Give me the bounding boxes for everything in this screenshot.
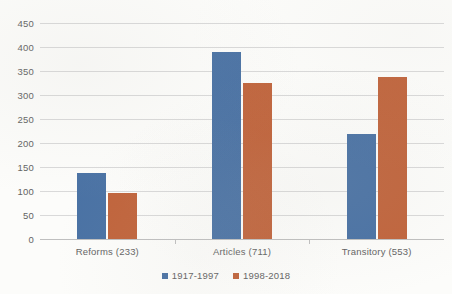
plot-area: 450400350300250200150100500 [40, 23, 444, 239]
legend-swatch-icon [233, 273, 239, 279]
x-axis-tick [175, 239, 176, 244]
y-axis-tick-label: 350 [18, 66, 34, 77]
legend-item-1917-1997[interactable]: 1917-1997 [162, 270, 219, 281]
y-axis-tick-label: 300 [18, 90, 34, 101]
y-axis-tick-label: 450 [18, 18, 34, 29]
bar-group [77, 23, 137, 239]
bar-1917-1997-Transitory (553)[interactable] [347, 134, 376, 239]
x-axis-labels: Reforms (233)Articles (711)Transitory (5… [40, 246, 444, 262]
y-axis-tick-label: 200 [18, 138, 34, 149]
y-axis-tick-label: 50 [23, 210, 34, 221]
legend-label: 1998-2018 [243, 270, 290, 281]
x-axis-tick [309, 239, 310, 244]
y-axis-tick-label: 100 [18, 186, 34, 197]
bars-layer [40, 23, 444, 239]
legend-swatch-icon [162, 273, 168, 279]
bar-1917-1997-Reforms (233)[interactable] [77, 173, 106, 239]
bar-group [347, 23, 407, 239]
bar-1998-2018-Transitory (553)[interactable] [378, 77, 407, 239]
legend-label: 1917-1997 [172, 270, 219, 281]
x-axis-category-label: Transitory (553) [342, 246, 412, 257]
x-axis-category-label: Articles (711) [213, 246, 271, 257]
y-axis-tick-label: 400 [18, 42, 34, 53]
bar-1998-2018-Articles (711)[interactable] [243, 83, 272, 239]
chart-legend: 1917-19971998-2018 [0, 270, 452, 281]
bar-1998-2018-Reforms (233)[interactable] [108, 193, 137, 239]
bar-1917-1997-Articles (711)[interactable] [212, 52, 241, 239]
legend-item-1998-2018[interactable]: 1998-2018 [233, 270, 290, 281]
bar-group [212, 23, 272, 239]
bar-chart: 450400350300250200150100500 Reforms (233… [0, 0, 452, 294]
x-axis-category-label: Reforms (233) [76, 246, 139, 257]
y-axis-tick-label: 150 [18, 162, 34, 173]
y-axis-tick-label: 0 [29, 234, 34, 245]
y-axis-tick-label: 250 [18, 114, 34, 125]
axis-baseline [40, 239, 444, 240]
